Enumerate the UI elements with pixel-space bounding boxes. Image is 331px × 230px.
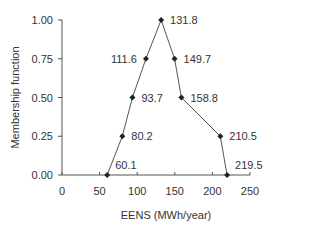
x-tick-label: 150 xyxy=(166,185,184,197)
y-tick-label: 0.25 xyxy=(32,130,53,142)
data-point-marker xyxy=(172,56,178,62)
axes: 0.000.250.500.751.00050100150200250 xyxy=(32,14,260,197)
y-tick-label: 0.75 xyxy=(32,53,53,65)
x-tick-label: 200 xyxy=(203,185,221,197)
data-point-marker xyxy=(224,172,230,178)
y-axis-title: Membership function xyxy=(9,46,21,148)
data-label: 158.8 xyxy=(190,92,218,104)
data-label: 219.5 xyxy=(235,159,263,171)
data-label: 131.8 xyxy=(170,14,198,26)
data-label: 60.1 xyxy=(115,159,136,171)
y-tick-label: 0.00 xyxy=(32,169,53,181)
data-point-marker xyxy=(143,56,149,62)
x-tick-label: 50 xyxy=(93,185,105,197)
x-axis-title: EENS (MWh/year) xyxy=(121,209,211,221)
y-tick-label: 0.50 xyxy=(32,92,53,104)
data-label: 111.6 xyxy=(111,53,137,65)
y-tick-label: 1.00 xyxy=(32,14,53,26)
data-point-marker xyxy=(119,133,125,139)
data-label: 80.2 xyxy=(131,130,152,142)
data-point-marker xyxy=(158,17,164,23)
data-label: 149.7 xyxy=(184,53,212,65)
data-label: 93.7 xyxy=(141,92,162,104)
x-tick-label: 250 xyxy=(241,185,259,197)
x-tick-label: 0 xyxy=(59,185,65,197)
x-tick-label: 100 xyxy=(128,185,146,197)
membership-function-chart: 0.000.250.500.751.00050100150200250 60.1… xyxy=(0,0,331,230)
data-point-marker xyxy=(129,95,135,101)
series-group: 60.180.293.7111.6131.8149.7158.8210.5219… xyxy=(104,14,262,178)
data-point-marker xyxy=(104,172,110,178)
data-label: 210.5 xyxy=(229,130,257,142)
